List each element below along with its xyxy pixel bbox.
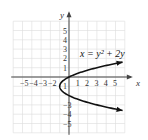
y-tick-label: 1	[63, 64, 67, 73]
x-tick-label: 2	[85, 79, 89, 88]
x-tick-label: 5	[113, 79, 117, 88]
equation-label: x = y² + 2y	[79, 48, 125, 59]
y-tick-label: −4	[63, 110, 72, 119]
y-tick-label: 3	[63, 45, 67, 54]
y-tick-label: −3	[63, 101, 72, 110]
axes	[11, 11, 133, 135]
x-tick-label: 3	[94, 79, 98, 88]
y-tick-label: 1	[63, 82, 67, 91]
parabola-plot: −5−4−3−212345543211−3−4−5 x y x = y² + 2…	[0, 0, 148, 140]
x-tick-label: −5	[20, 79, 29, 88]
x-tick-label: 1	[76, 79, 80, 88]
x-tick-label: −3	[39, 79, 48, 88]
y-tick-label: 5	[63, 27, 67, 36]
y-tick-label: −5	[63, 120, 72, 129]
x-tick-label: −4	[29, 79, 38, 88]
x-tick-label: 4	[104, 79, 108, 88]
x-axis-label: x	[135, 78, 140, 88]
y-axis-label: y	[59, 10, 64, 20]
y-tick-label: 4	[63, 36, 67, 45]
y-tick-label: 2	[63, 54, 67, 63]
x-tick-label: −2	[48, 79, 57, 88]
